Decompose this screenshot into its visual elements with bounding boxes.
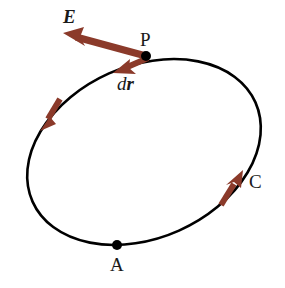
label-electric-field: E	[63, 7, 76, 26]
displacement-vector	[113, 58, 148, 74]
path-direction-arrow-right	[221, 170, 243, 205]
physics-diagram-canvas: E P dr C A	[0, 0, 285, 288]
label-displacement-dr: dr	[117, 74, 134, 93]
point-a-marker	[112, 240, 122, 250]
label-curve-c: C	[249, 172, 262, 191]
point-p-marker	[141, 51, 151, 61]
electric-field-vector-shaft	[76, 37, 146, 56]
label-dr-r: r	[127, 73, 134, 94]
electric-field-vector	[63, 27, 146, 56]
label-point-a: A	[110, 255, 124, 274]
label-dr-d: d	[117, 73, 127, 94]
label-point-p: P	[140, 30, 151, 49]
